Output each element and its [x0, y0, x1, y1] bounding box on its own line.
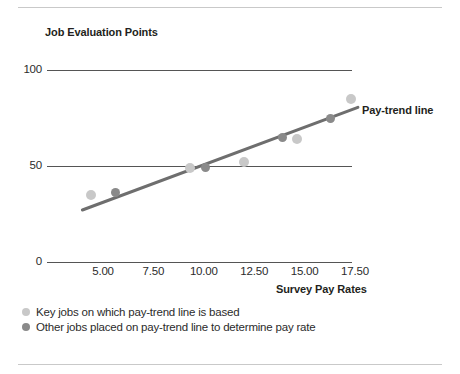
other-job-data-point [111, 188, 120, 197]
legend-item-key-jobs: Key jobs on which pay-trend line is base… [22, 305, 315, 319]
key-job-data-point [185, 163, 195, 173]
other-job-data-point [201, 163, 210, 172]
y-tick-label: 100 [8, 63, 42, 75]
y-tick-label: 50 [8, 159, 42, 171]
legend-item-other-jobs: Other jobs placed on pay-trend line to d… [22, 320, 315, 334]
pay-trend-chart-figure: Job Evaluation Points 0501005.007.5010.0… [0, 0, 460, 374]
pay-trend-line-annotation: Pay-trend line [362, 104, 433, 116]
pay-trend-line [80, 105, 359, 211]
x-tick-label: 10.00 [179, 265, 229, 277]
x-tick-label: 17.50 [330, 265, 380, 277]
y-tick-label: 0 [8, 255, 42, 267]
other-job-dot-icon [22, 323, 30, 331]
other-job-data-point [278, 133, 287, 142]
x-axis-title: Survey Pay Rates [276, 283, 367, 295]
gridline-y-0 [47, 262, 352, 263]
gridline-y-100 [47, 70, 352, 71]
x-tick-label: 5.00 [78, 265, 128, 277]
x-tick-label: 15.00 [280, 265, 330, 277]
key-job-data-point [346, 94, 356, 104]
legend-item-label: Key jobs on which pay-trend line is base… [36, 306, 239, 318]
key-job-data-point [292, 134, 302, 144]
chart-legend: Key jobs on which pay-trend line is base… [22, 305, 315, 335]
key-job-dot-icon [22, 308, 30, 316]
other-job-data-point [326, 114, 335, 123]
x-tick-label: 7.50 [128, 265, 178, 277]
legend-item-label: Other jobs placed on pay-trend line to d… [36, 321, 315, 333]
key-job-data-point [86, 190, 96, 200]
x-tick-label: 12.50 [229, 265, 279, 277]
